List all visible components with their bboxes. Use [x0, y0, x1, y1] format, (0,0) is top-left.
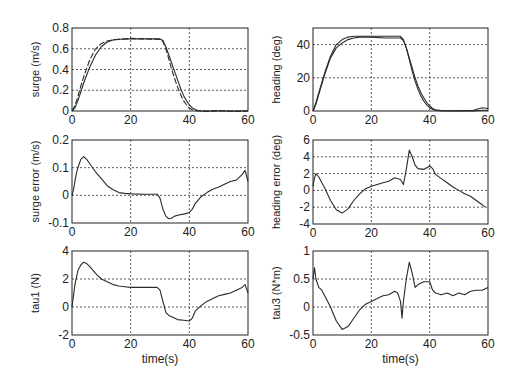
x-tick-label: 40	[183, 113, 197, 127]
y-tick-label: -4	[299, 217, 310, 231]
x-tick-label: 20	[365, 337, 379, 351]
x-tick-label: 20	[124, 337, 138, 351]
series-desired	[313, 36, 488, 111]
figure: 020406000.20.40.60.8surge (m/s)020406002…	[0, 0, 520, 389]
subplot-surge: 020406000.20.40.60.8surge (m/s)	[29, 21, 255, 127]
x-tick-label: 60	[481, 226, 495, 240]
x-tick-label: 20	[365, 226, 379, 240]
series-error	[313, 150, 485, 213]
y-tick-label: 0	[303, 104, 310, 118]
subplot-surge-error: 0204060-0.100.10.2surge error (m/s)	[29, 133, 255, 239]
y-tick-label: -2	[58, 328, 69, 342]
axes-box	[313, 28, 488, 111]
plot-canvas: 020406000.20.40.60.8surge (m/s)020406002…	[0, 0, 520, 389]
subplot-heading: 020406002040heading (deg)	[270, 28, 495, 127]
y-tick-label: 0.1	[52, 161, 69, 175]
y-tick-label: 40	[297, 38, 311, 52]
series-tau1	[72, 262, 248, 321]
series-error	[72, 157, 248, 219]
x-tick-label: 0	[69, 337, 76, 351]
x-tick-label: 0	[310, 226, 317, 240]
x-tick-label: 0	[310, 113, 317, 127]
y-tick-label: 2	[62, 272, 69, 286]
y-tick-label: 0.2	[52, 133, 69, 147]
y-tick-label: 0	[62, 188, 69, 202]
y-tick-label: 0.8	[52, 21, 69, 35]
y-tick-label: 6	[303, 133, 310, 147]
y-axis-label: surge (m/s)	[29, 42, 41, 98]
x-tick-label: 60	[481, 337, 495, 351]
axes-box	[313, 251, 488, 335]
y-tick-label: 4	[62, 244, 69, 258]
y-tick-label: 0	[62, 300, 69, 314]
x-tick-label: 0	[310, 337, 317, 351]
x-tick-label: 40	[423, 113, 437, 127]
y-axis-label: tau1 (N)	[29, 273, 41, 313]
y-tick-label: 0.6	[52, 42, 69, 56]
y-tick-label: 2	[303, 167, 310, 181]
x-axis-label: time(s)	[142, 352, 179, 366]
x-tick-label: 40	[423, 337, 437, 351]
y-tick-label: 0.5	[293, 272, 310, 286]
y-tick-label: -0.1	[48, 216, 69, 230]
series-actual	[313, 37, 488, 111]
y-axis-label: tau3 (N*m)	[270, 266, 282, 319]
y-tick-label: 0	[303, 300, 310, 314]
x-tick-label: 20	[124, 225, 138, 239]
x-tick-label: 40	[183, 225, 197, 239]
x-tick-label: 60	[481, 113, 495, 127]
series-actual	[72, 38, 248, 111]
x-tick-label: 60	[241, 337, 255, 351]
y-axis-label: heading (deg)	[270, 36, 282, 104]
y-tick-label: -2	[299, 200, 310, 214]
x-tick-label: 0	[69, 225, 76, 239]
x-tick-label: 60	[241, 113, 255, 127]
axes-box	[72, 251, 248, 335]
x-tick-label: 40	[423, 226, 437, 240]
subplot-heading-error: 0204060-4-20246heading error (deg)	[270, 133, 495, 240]
y-axis-label: surge error (m/s)	[29, 141, 41, 223]
y-tick-label: 4	[303, 150, 310, 164]
y-tick-label: 0	[303, 183, 310, 197]
subplot-tau3: 0204060-0.500.51tau3 (N*m)time(s)	[270, 244, 495, 366]
subplot-tau1: 0204060-2024tau1 (N)time(s)	[29, 244, 255, 366]
x-tick-label: 40	[183, 337, 197, 351]
y-tick-label: -0.5	[289, 328, 310, 342]
x-tick-label: 60	[241, 225, 255, 239]
series-desired	[72, 39, 248, 111]
axes-box	[72, 140, 248, 223]
y-tick-label: 0.2	[52, 83, 69, 97]
x-tick-label: 20	[124, 113, 138, 127]
x-tick-label: 0	[69, 113, 76, 127]
y-tick-label: 20	[297, 71, 311, 85]
y-tick-label: 0.4	[52, 63, 69, 77]
y-axis-label: heading error (deg)	[270, 135, 282, 229]
series-tau3	[313, 262, 488, 329]
x-tick-label: 20	[365, 113, 379, 127]
y-tick-label: 0	[62, 104, 69, 118]
y-tick-label: 1	[303, 244, 310, 258]
x-axis-label: time(s)	[382, 352, 419, 366]
